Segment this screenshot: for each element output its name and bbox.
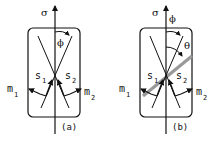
m1-label: m xyxy=(119,83,125,94)
diagram-canvas: σ ϕ s 1 s 2 m 1 m 2 (a) σ ϕ θ s xyxy=(0,0,222,141)
m1-normal xyxy=(29,89,46,96)
s2-subscript: 2 xyxy=(72,77,76,85)
s2-arrow xyxy=(169,80,175,96)
s1-label: s xyxy=(35,70,41,81)
m2-label: m xyxy=(196,86,202,97)
panel-a: σ ϕ s 1 s 2 m 1 m 2 (a) xyxy=(7,6,95,134)
s1-subscript: 1 xyxy=(154,77,158,85)
phi-label: ϕ xyxy=(169,13,176,24)
s1-label: s xyxy=(147,70,153,81)
m2-subscript: 2 xyxy=(91,94,95,102)
m2-normal xyxy=(175,89,192,96)
phi-arc xyxy=(166,31,180,35)
m1-subscript: 1 xyxy=(126,91,130,99)
s1-subscript: 1 xyxy=(42,77,46,85)
s2-subscript: 2 xyxy=(183,77,187,85)
m2-normal xyxy=(64,89,81,96)
s1-arrow xyxy=(46,80,52,96)
m2-subscript: 2 xyxy=(203,94,207,102)
caption-b: (b) xyxy=(172,122,188,132)
m2-label: m xyxy=(84,86,90,97)
panel-b: σ ϕ θ s 1 s 2 m 1 m 2 (b) xyxy=(119,6,207,134)
s2-arrow xyxy=(58,80,64,96)
sigma-label: σ xyxy=(41,7,48,18)
sigma-label: σ xyxy=(152,7,159,18)
phi-label: ϕ xyxy=(57,37,64,48)
s2-label: s xyxy=(65,70,71,81)
phi-arc xyxy=(55,31,69,35)
m1-label: m xyxy=(7,83,13,94)
theta-label: θ xyxy=(184,40,190,51)
theta-arc xyxy=(166,47,182,56)
caption-a: (a) xyxy=(61,122,77,132)
s2-label: s xyxy=(176,70,182,81)
m1-subscript: 1 xyxy=(14,91,18,99)
